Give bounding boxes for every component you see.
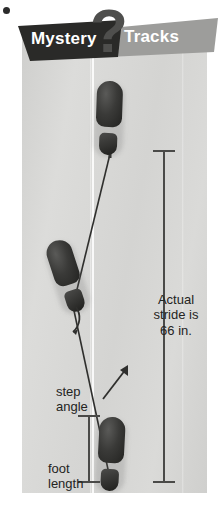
footprint-heel (99, 133, 118, 156)
step-angle-label-line2: angle (56, 399, 112, 414)
measure-cap-bottom (153, 481, 175, 483)
track-photo-panel: Actual stride is 66 in. step angle foot … (22, 36, 207, 493)
foot-length-label: foot length (48, 461, 94, 492)
step-angle-label-line1: step (56, 384, 112, 399)
stride-label: Actual stride is 66 in. (146, 292, 206, 338)
rotation-arrow-icon (56, 304, 86, 338)
title-banner: ? Mystery Tracks (0, 0, 218, 64)
stride-label-line2: stride is (146, 307, 206, 322)
stride-label-line1: Actual (146, 292, 206, 307)
footprint-forefoot (98, 416, 126, 463)
banner-label-tracks: Tracks (124, 27, 179, 47)
top-footprint (95, 81, 124, 156)
stride-label-line3: 66 in. (146, 323, 206, 338)
foot-length-label-line1: foot (48, 461, 94, 476)
footprint-forefoot (96, 81, 124, 128)
banner-label-mystery: Mystery (31, 29, 97, 49)
step-angle-label: step angle (56, 384, 112, 415)
bottom-footprint (96, 416, 126, 491)
figure-root: Actual stride is 66 in. step angle foot … (0, 0, 218, 511)
foot-length-label-line2: length (48, 476, 94, 491)
